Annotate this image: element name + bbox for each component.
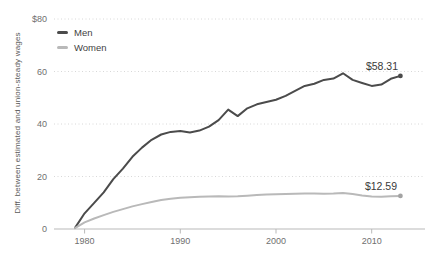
legend-item-women: Women [57,40,107,55]
y-tick-label: 40 [37,119,47,129]
men-end-value-label: $58.31 [366,60,398,72]
y-tick-label: 20 [37,172,47,182]
x-tick-label: 2010 [362,236,382,246]
men-line-swatch [57,31,68,34]
legend-label-men: Men [74,27,92,38]
women-end-dot [398,194,403,199]
y-axis-title: Diff. between estimated and union-steady… [13,9,25,237]
line-chart: $8060402001980199020002010 Diff. between… [0,0,433,263]
x-tick-label: 1990 [170,236,190,246]
x-tick-label: 1980 [75,236,95,246]
legend: Men Women [57,25,107,55]
men-end-dot [398,74,403,79]
y-tick-label: $80 [32,14,47,24]
x-tick-label: 2000 [266,236,286,246]
women-end-value-label: $12.59 [365,180,397,192]
men-line [75,73,400,228]
women-line [75,193,400,228]
legend-item-men: Men [57,25,107,40]
y-tick-label: 60 [37,67,47,77]
women-line-swatch [57,46,68,49]
y-tick-label: 0 [42,224,47,234]
legend-label-women: Women [74,42,107,53]
